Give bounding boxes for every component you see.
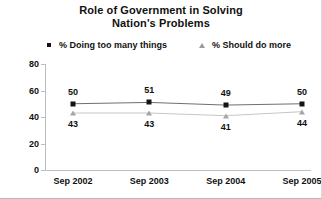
y-axis-tick-label: 60 xyxy=(29,86,39,96)
data-point-label: 50 xyxy=(68,87,78,97)
square-marker-icon xyxy=(223,103,228,108)
data-point-label: 43 xyxy=(68,119,78,129)
chart-title: Role of Government in Solving Nation's P… xyxy=(0,4,322,30)
data-point-label: 41 xyxy=(221,122,231,132)
legend-item-doing-too-many-things: % Doing too many things xyxy=(44,38,167,52)
legend-item-label: % Should do more xyxy=(212,40,291,50)
x-axis-tick-label: Sep 2004 xyxy=(206,176,245,186)
chart-title-line-2: Nation's Problems xyxy=(0,17,322,30)
data-point-label: 49 xyxy=(221,88,231,98)
legend-item-should-do-more: % Should do more xyxy=(197,38,291,52)
triangle-marker-icon xyxy=(70,111,76,116)
data-point-label: 51 xyxy=(144,85,154,95)
triangle-marker-icon xyxy=(197,40,209,50)
data-point-label: 43 xyxy=(144,119,154,129)
y-axis-tick-label: 0 xyxy=(34,165,39,175)
x-axis-tick-label: Sep 2005 xyxy=(282,176,321,186)
y-axis-tick-label: 20 xyxy=(29,139,39,149)
y-axis-tick-label: 40 xyxy=(29,112,39,122)
x-axis-tick-label: Sep 2003 xyxy=(130,176,169,186)
y-axis-tick-label: 80 xyxy=(29,59,39,69)
chart-container: Role of Government in Solving Nation's P… xyxy=(0,0,322,199)
x-axis-tick-label: Sep 2002 xyxy=(53,176,92,186)
square-marker-icon xyxy=(44,40,56,50)
series-lines xyxy=(45,64,310,170)
plot-area: 5051495043434144 xyxy=(45,64,310,170)
triangle-marker-icon xyxy=(223,113,229,118)
legend-item-label: % Doing too many things xyxy=(59,40,167,50)
chart-legend: % Doing too many things % Should do more xyxy=(44,38,304,52)
data-point-label: 44 xyxy=(297,118,307,128)
x-axis-line xyxy=(45,170,311,171)
square-marker-icon xyxy=(147,100,152,105)
chart-title-line-1: Role of Government in Solving xyxy=(0,4,322,17)
data-point-label: 50 xyxy=(297,87,307,97)
triangle-marker-icon xyxy=(146,111,152,116)
square-marker-icon xyxy=(71,101,76,106)
triangle-marker-icon xyxy=(299,109,305,114)
square-marker-icon xyxy=(300,101,305,106)
